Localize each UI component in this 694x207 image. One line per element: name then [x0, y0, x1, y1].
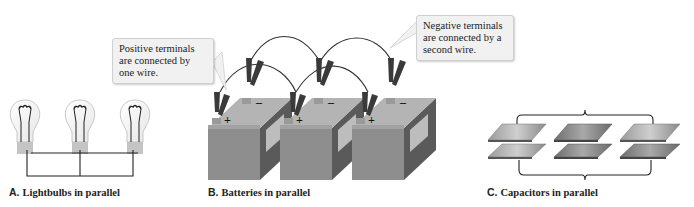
caption-text: Capacitors in parallel	[501, 187, 598, 198]
wire-bottom	[27, 150, 133, 176]
parallel-circuits-diagram: + – + – + –	[0, 0, 694, 207]
clip	[246, 58, 406, 86]
svg-text:–: –	[399, 95, 407, 109]
batteries-group: + – + – + –	[208, 20, 436, 180]
positive-terminal-label: +	[224, 113, 231, 127]
caption-capacitors: C.Capacitors in parallel	[487, 186, 598, 198]
capacitor	[488, 124, 546, 159]
callout-positive-terminals: Positive terminals are connected by one …	[112, 38, 214, 84]
caption-letter: B.	[208, 186, 219, 198]
callout-pointer	[212, 52, 226, 90]
wire-bottom	[519, 160, 651, 180]
lightbulbs-group	[10, 100, 149, 176]
positive-cable	[220, 64, 368, 92]
callout-text: Negative terminals are connected by a se…	[423, 20, 503, 55]
capacitor	[620, 124, 680, 159]
capacitor	[554, 124, 612, 159]
svg-text:–: –	[327, 95, 335, 109]
caption-lightbulbs: A.Lightbulbs in parallel	[9, 186, 120, 198]
lightbulb	[120, 100, 149, 154]
callout-text: Positive terminals are connected by one …	[119, 43, 195, 78]
capacitors-group	[488, 110, 680, 180]
caption-text: Batteries in parallel	[222, 187, 311, 198]
lightbulb	[65, 100, 94, 154]
lightbulb	[10, 100, 39, 154]
callout-pointer	[390, 20, 418, 48]
caption-letter: C.	[487, 186, 498, 198]
negative-terminal-label: –	[255, 95, 263, 109]
caption-batteries: B.Batteries in parallel	[208, 186, 310, 198]
callout-negative-terminals: Negative terminals are connected by a se…	[416, 15, 514, 61]
caption-letter: A.	[9, 186, 20, 198]
caption-text: Lightbulbs in parallel	[23, 187, 120, 198]
